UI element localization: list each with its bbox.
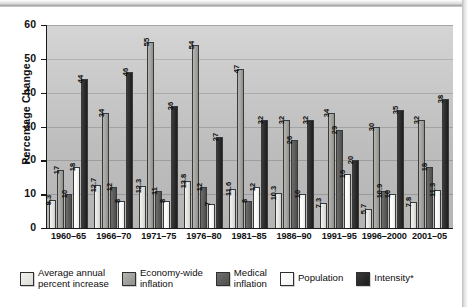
scan-edge-right: [462, 0, 468, 307]
bar[interactable]: 10: [389, 194, 396, 228]
legend-label: Medical inflation: [234, 268, 267, 289]
x-tick-label: 1971–75: [136, 231, 181, 241]
bar-group: 10.332261032: [272, 25, 317, 228]
bar[interactable]: 12.7: [94, 185, 101, 228]
bar[interactable]: 8: [118, 201, 125, 228]
bar-value-label: 8: [114, 199, 122, 203]
bar[interactable]: 32: [261, 120, 268, 228]
legend-label: Economy-wide inflation: [140, 268, 203, 289]
x-tick-label: 2001–05: [407, 231, 452, 241]
bar[interactable]: 30: [373, 127, 380, 229]
bar-group: 7.334291620: [317, 25, 362, 228]
bar-value-label: 12: [249, 183, 257, 191]
bar-wrapper: 7.3: [320, 203, 327, 228]
legend-item[interactable]: Medical inflation: [216, 268, 267, 289]
bar[interactable]: 12: [200, 187, 207, 228]
bar[interactable]: 12: [110, 187, 117, 228]
bar-groups: 8.31710184412.7341284612.3551183613.8541…: [46, 25, 452, 228]
bar[interactable]: 11.6: [229, 189, 236, 228]
bar[interactable]: 38: [442, 99, 449, 228]
bar[interactable]: 16: [344, 174, 351, 228]
bar[interactable]: 27: [216, 137, 223, 228]
bar[interactable]: 10: [65, 194, 72, 228]
bar-value-label: 46: [122, 68, 130, 76]
bar-wrapper: 11.3: [434, 190, 441, 228]
bar-wrapper: 35: [397, 110, 404, 228]
bar[interactable]: 34: [102, 113, 109, 228]
bar[interactable]: 55: [147, 42, 154, 228]
bar-wrapper: 16: [344, 174, 351, 228]
bar-value-label: 32: [278, 116, 286, 124]
bar-wrapper: 12: [253, 187, 260, 228]
bar-value-label: 18: [421, 163, 429, 171]
bar-value-label: 34: [323, 109, 331, 117]
bar[interactable]: 11.3: [434, 190, 441, 228]
bar[interactable]: 20: [352, 160, 359, 228]
bar-value-label: 11.6: [225, 182, 233, 196]
legend-item[interactable]: Intensity*: [356, 272, 413, 286]
legend-label: Population: [298, 273, 343, 284]
bar[interactable]: 10: [299, 194, 306, 228]
bar-value-label: 16: [339, 170, 347, 178]
legend-item[interactable]: Average annual percent increase: [20, 268, 109, 289]
bar[interactable]: 18: [426, 167, 433, 228]
bar[interactable]: 17: [57, 170, 64, 228]
bar-group: 11.64781232: [226, 25, 271, 228]
bar-value-label: 29: [331, 126, 339, 134]
bar-value-label: 10: [61, 190, 69, 198]
bar-value-label: 54: [188, 41, 196, 49]
legend-label: Intensity*: [374, 273, 413, 284]
bar-wrapper: 11.6: [229, 189, 236, 228]
y-tick-label-30: 30: [6, 120, 36, 132]
bar-value-label: 7.3: [315, 198, 323, 208]
bar[interactable]: 44: [81, 79, 88, 228]
bar[interactable]: 10.3: [275, 193, 282, 228]
bar[interactable]: 36: [171, 106, 178, 228]
bar[interactable]: 32: [418, 120, 425, 228]
x-tick-label: 1981–85: [226, 231, 271, 241]
bar[interactable]: 8: [245, 201, 252, 228]
bar[interactable]: 11: [155, 191, 162, 228]
bar-wrapper: 38: [442, 99, 449, 228]
bar-wrapper: 10: [299, 194, 306, 228]
x-tick-label: 1991–95: [317, 231, 362, 241]
bar[interactable]: 32: [307, 120, 314, 228]
bar[interactable]: 18: [73, 167, 80, 228]
bar-wrapper: 11: [155, 191, 162, 228]
bar[interactable]: 5.7: [365, 209, 372, 228]
legend-item[interactable]: Population: [280, 272, 343, 286]
bar[interactable]: 7.8: [410, 202, 417, 228]
bar[interactable]: 7.3: [320, 203, 327, 228]
bar-group: 12.73412846: [91, 25, 136, 228]
bar-wrapper: 8: [163, 201, 170, 228]
bar[interactable]: 12: [253, 187, 260, 228]
bar-value-label: 32: [413, 116, 421, 124]
bar-wrapper: 10.3: [275, 193, 282, 228]
bar-wrapper: 12: [200, 187, 207, 228]
bar[interactable]: 8: [163, 201, 170, 228]
bar[interactable]: 12.3: [139, 186, 146, 228]
bar[interactable]: 8.3: [49, 200, 56, 228]
bar-value-label: 11: [151, 187, 159, 195]
bar[interactable]: 13.8: [184, 181, 191, 228]
chart-legend: Average annual percent increaseEconomy-w…: [20, 268, 454, 289]
bar-value-label: 27: [212, 132, 220, 140]
bar-value-label: 13.8: [180, 174, 188, 189]
bar[interactable]: 26: [291, 140, 298, 228]
bar-wrapper: 29: [336, 130, 343, 228]
bar-value-label: 10.3: [270, 186, 278, 201]
bar[interactable]: 29: [336, 130, 343, 228]
x-tick-label: 1960–65: [46, 231, 91, 241]
bar-wrapper: 7: [208, 204, 215, 228]
bar[interactable]: 7: [208, 204, 215, 228]
legend-item[interactable]: Economy-wide inflation: [122, 268, 203, 289]
x-tick-label: 1966–70: [91, 231, 136, 241]
bar[interactable]: 47: [237, 69, 244, 228]
bar-value-label: 12.7: [90, 178, 98, 193]
y-tick-label-50: 50: [6, 52, 36, 64]
bar[interactable]: 54: [192, 45, 199, 228]
bar-group: 8.317101844: [46, 25, 91, 228]
bar-value-label: 10: [294, 190, 302, 198]
bar[interactable]: 35: [397, 110, 404, 228]
bar[interactable]: 46: [126, 72, 133, 228]
